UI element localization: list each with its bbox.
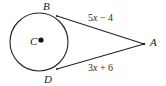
geometry-figure: B D A C 5x − 4 3x + 6: [0, 0, 166, 86]
point-b-marker: [56, 15, 58, 17]
circle-shape: [10, 13, 68, 71]
geometry-diagram-svg: [0, 0, 166, 86]
center-point-dot: [38, 37, 43, 42]
point-d-marker: [56, 68, 58, 70]
point-label-d: D: [44, 74, 52, 85]
point-label-c: C: [30, 36, 37, 47]
point-label-a: A: [150, 37, 157, 48]
segment-label-da: 3x + 6: [88, 63, 113, 73]
segment-label-ba: 5x − 4: [88, 13, 113, 23]
point-a-marker: [143, 43, 145, 45]
point-label-b: B: [43, 1, 50, 12]
